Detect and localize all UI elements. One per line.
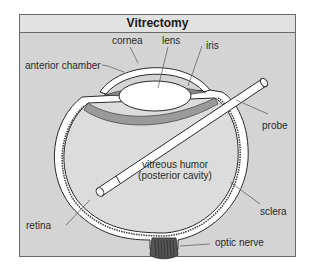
eye-diagram bbox=[0, 0, 313, 272]
label-cornea: cornea bbox=[112, 35, 143, 46]
label-anterior-chamber: anterior chamber bbox=[25, 60, 101, 71]
label-sclera: sclera bbox=[260, 206, 287, 217]
label-lens: lens bbox=[162, 35, 180, 46]
label-probe: probe bbox=[262, 120, 288, 131]
label-vitreous-humor: vitreous humor (posterior cavity) bbox=[120, 159, 230, 181]
lens-shape bbox=[119, 81, 191, 111]
label-vitreous-line2: (posterior cavity) bbox=[120, 170, 230, 181]
label-optic-nerve: optic nerve bbox=[215, 237, 264, 248]
label-vitreous-line1: vitreous humor bbox=[120, 159, 230, 170]
label-iris: iris bbox=[206, 40, 219, 51]
label-retina: retina bbox=[26, 220, 51, 231]
